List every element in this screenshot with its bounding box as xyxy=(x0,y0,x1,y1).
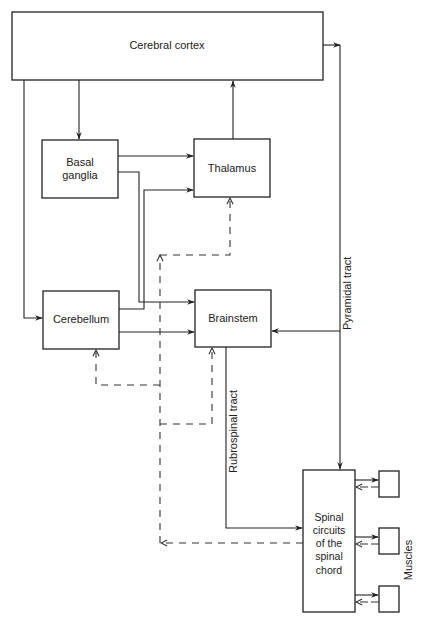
spinal-circuits-node: Spinal circuits of the spinal chord xyxy=(303,470,355,612)
pyramidal-tract-label: Pyramidal tract xyxy=(341,257,353,330)
motor-pathways-diagram: Cerebral cortex Basal ganglia Thalamus C… xyxy=(0,0,427,627)
muscle-box-1 xyxy=(379,471,399,497)
basal-ganglia-label-line1: Basal xyxy=(66,156,94,168)
basal-ganglia-node: Basal ganglia xyxy=(42,140,118,198)
cerebral-cortex-label: Cerebral cortex xyxy=(129,39,205,51)
basal-ganglia-label-line2: ganglia xyxy=(62,169,98,181)
muscles-label: Muscles xyxy=(402,539,414,580)
cerebellum-label: Cerebellum xyxy=(53,313,109,325)
spinal-label-line4: spinal xyxy=(315,550,342,562)
spinal-label-line3: of the xyxy=(316,537,342,549)
spinal-label-line1: Spinal xyxy=(314,511,343,523)
thalamus-node: Thalamus xyxy=(194,139,270,197)
brainstem-label: Brainstem xyxy=(208,312,258,324)
spinal-label-line5: chord xyxy=(316,564,342,576)
cerebral-cortex-node: Cerebral cortex xyxy=(12,12,323,80)
muscle-box-3 xyxy=(379,586,399,612)
muscle-box-2 xyxy=(379,528,399,554)
spinal-label-line2: circuits xyxy=(313,524,346,536)
thalamus-label: Thalamus xyxy=(208,162,257,174)
muscle-boxes xyxy=(379,471,399,612)
brainstem-node: Brainstem xyxy=(195,290,271,347)
cerebellum-node: Cerebellum xyxy=(43,291,119,349)
rubrospinal-tract-label: Rubrospinal tract xyxy=(227,390,239,473)
